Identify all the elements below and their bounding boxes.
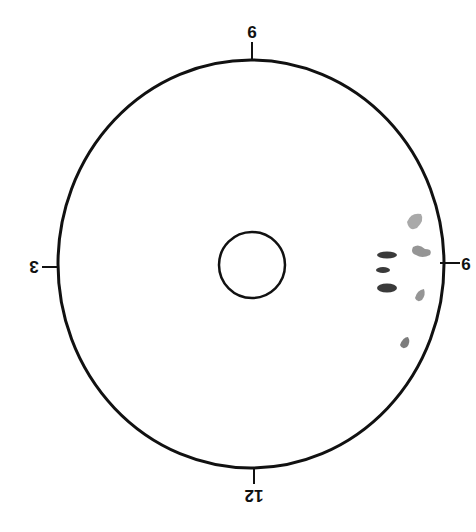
label-top: 9 bbox=[247, 22, 256, 41]
label-right: 6 bbox=[461, 255, 470, 274]
outer-circle bbox=[58, 60, 444, 468]
light-blotch bbox=[400, 337, 409, 348]
label-bottom: 12 bbox=[245, 486, 264, 505]
label-left: 3 bbox=[29, 257, 38, 276]
light-blotch bbox=[407, 214, 422, 229]
light-blotch bbox=[412, 245, 431, 257]
inner-circle bbox=[219, 232, 285, 298]
dark-mark bbox=[377, 284, 397, 293]
dark-mark bbox=[376, 267, 390, 273]
light-blotch bbox=[415, 289, 425, 301]
dark-mark bbox=[377, 252, 397, 259]
target-diagram: 9 12 3 6 bbox=[0, 0, 476, 532]
